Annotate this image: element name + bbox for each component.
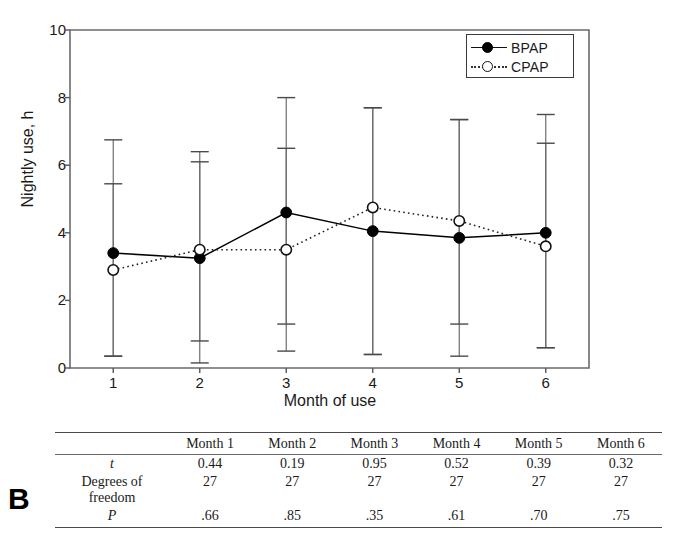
table-cell: .75 xyxy=(580,507,662,528)
table-row: Degrees of freedom 27 27 27 27 27 27 xyxy=(55,473,662,507)
data-point-bpap xyxy=(367,226,378,237)
table-row-label-line1: Degrees of xyxy=(81,474,142,489)
table-row: P .66 .85 .35 .61 .70 .75 xyxy=(55,507,662,528)
data-point-bpap xyxy=(540,227,551,238)
table-cell: 27 xyxy=(580,473,662,507)
table-col-header: Month 2 xyxy=(251,433,333,455)
data-point-bpap xyxy=(281,207,292,218)
table-col-header: Month 6 xyxy=(580,433,662,455)
figure-panel-b: Nightly use, h Month of use 0246810 1234… xyxy=(0,0,682,553)
table-header-row: Month 1 Month 2 Month 3 Month 4 Month 5 … xyxy=(55,433,662,455)
table-cell: 0.19 xyxy=(251,455,333,474)
table-col-header: Month 5 xyxy=(498,433,580,455)
data-point-cpap xyxy=(281,245,291,255)
data-point-bpap xyxy=(108,248,119,259)
table-cell: .66 xyxy=(169,507,251,528)
data-point-cpap xyxy=(195,245,205,255)
table-row-label: P xyxy=(55,507,169,528)
table-row: t 0.44 0.19 0.95 0.52 0.39 0.32 xyxy=(55,455,662,474)
legend-item-bpap: BPAP xyxy=(467,37,575,58)
table-col-header: Month 3 xyxy=(333,433,415,455)
table-cell: 27 xyxy=(251,473,333,507)
series-line-cpap xyxy=(113,207,546,270)
panel-letter: B xyxy=(8,482,30,516)
legend-label-cpap: CPAP xyxy=(511,59,549,75)
table-cell: 0.52 xyxy=(415,455,497,474)
table-cell: 0.39 xyxy=(498,455,580,474)
table-cell: 27 xyxy=(169,473,251,507)
legend-marker-open-circle-icon xyxy=(467,58,511,76)
table-row-label: Degrees of freedom xyxy=(55,473,169,507)
stats-table: Month 1 Month 2 Month 3 Month 4 Month 5 … xyxy=(55,432,662,528)
legend-label-bpap: BPAP xyxy=(511,40,548,56)
stats-table-wrapper: Month 1 Month 2 Month 3 Month 4 Month 5 … xyxy=(55,432,662,528)
data-point-bpap xyxy=(454,232,465,243)
table-cell: 0.44 xyxy=(169,455,251,474)
chart-area: Nightly use, h Month of use 0246810 1234… xyxy=(0,0,682,420)
data-point-cpap xyxy=(368,202,378,212)
table-col-header: Month 1 xyxy=(169,433,251,455)
table-row-label: t xyxy=(55,455,169,474)
table-cell: 0.32 xyxy=(580,455,662,474)
table-cell: 0.95 xyxy=(333,455,415,474)
table-cell: .70 xyxy=(498,507,580,528)
plot-frame xyxy=(70,30,589,368)
table-col-header: Month 4 xyxy=(415,433,497,455)
table-cell: .85 xyxy=(251,507,333,528)
data-point-cpap xyxy=(454,216,464,226)
legend-marker-filled-circle-icon xyxy=(467,39,511,57)
table-cell: 27 xyxy=(415,473,497,507)
data-point-cpap xyxy=(108,265,118,275)
chart-legend: BPAP CPAP xyxy=(466,34,574,78)
table-cell: .35 xyxy=(333,507,415,528)
series-line-bpap xyxy=(113,213,546,259)
table-corner-cell xyxy=(55,433,169,455)
table-row-label-line2: freedom xyxy=(89,490,136,505)
legend-item-cpap: CPAP xyxy=(467,56,575,77)
plot-canvas xyxy=(0,0,682,420)
data-point-cpap xyxy=(541,241,551,251)
table-cell: .61 xyxy=(415,507,497,528)
table-cell: 27 xyxy=(333,473,415,507)
table-cell: 27 xyxy=(498,473,580,507)
